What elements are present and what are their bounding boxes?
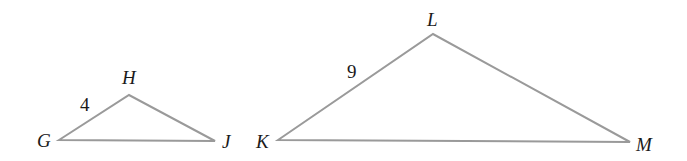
side-label-kl: 9 — [347, 61, 357, 82]
vertex-label-g: G — [37, 130, 51, 151]
vertex-label-j: J — [222, 131, 232, 152]
side-label-gh: 4 — [80, 94, 90, 115]
vertex-label-h: H — [121, 67, 137, 88]
diagram-canvas: G H J 4 K L M 9 — [0, 0, 687, 161]
vertex-label-m: M — [635, 134, 653, 155]
triangle-ghj: G H J 4 — [37, 67, 232, 152]
vertex-label-k: K — [255, 131, 270, 152]
triangle-klm: K L M 9 — [255, 9, 653, 155]
triangle-klm-outline — [278, 34, 630, 142]
vertex-label-l: L — [426, 9, 438, 30]
